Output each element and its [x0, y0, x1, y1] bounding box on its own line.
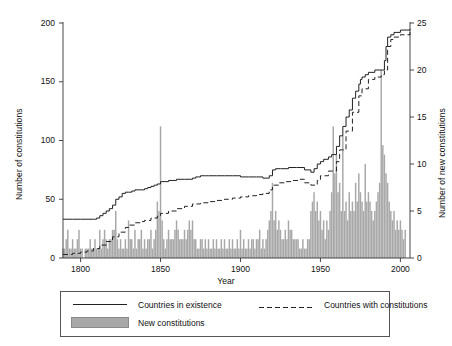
bar	[376, 202, 377, 258]
bar	[181, 239, 182, 258]
bar	[221, 239, 222, 258]
bar	[289, 230, 290, 258]
bar	[227, 249, 228, 258]
bar	[395, 230, 396, 258]
bar	[253, 239, 254, 258]
bar	[182, 239, 183, 258]
bar	[126, 249, 127, 258]
bar	[273, 220, 274, 258]
bar	[356, 202, 357, 258]
bar	[102, 239, 103, 258]
bar	[293, 239, 294, 258]
bar	[168, 230, 169, 258]
bar	[144, 239, 145, 258]
bar	[382, 145, 383, 258]
bar	[275, 211, 276, 258]
bar	[385, 173, 386, 258]
bar	[318, 220, 319, 258]
bar	[142, 249, 143, 258]
bar	[94, 239, 95, 258]
bar	[137, 239, 138, 258]
bar	[64, 249, 65, 258]
bar	[229, 239, 230, 258]
bar	[176, 220, 177, 258]
bar	[291, 230, 292, 258]
bar	[248, 239, 249, 258]
bar	[380, 70, 381, 258]
bar	[133, 249, 134, 258]
bar	[256, 239, 257, 258]
bar	[206, 249, 207, 258]
bar	[353, 211, 354, 258]
bar	[91, 249, 92, 258]
bar	[145, 249, 146, 258]
bar	[358, 173, 359, 258]
bar	[387, 183, 388, 258]
legend-item-countries-in-existence: Countries in existence	[71, 299, 222, 310]
bar	[281, 239, 282, 258]
bar	[169, 239, 170, 258]
bar	[241, 249, 242, 258]
chart-legend: Countries in existence Countries with co…	[60, 291, 390, 337]
bar	[331, 192, 332, 258]
bar	[344, 211, 345, 258]
bar	[197, 249, 198, 258]
legend-solid-line-icon	[71, 299, 129, 310]
bar	[166, 239, 167, 258]
bar	[81, 249, 82, 258]
bar	[208, 239, 209, 258]
bar	[401, 230, 402, 258]
bar	[286, 239, 287, 258]
bar	[189, 220, 190, 258]
bar	[233, 249, 234, 258]
bar	[85, 249, 86, 258]
bar	[86, 249, 87, 258]
legend-item-new-constitutions: New constitutions	[71, 317, 205, 328]
bar	[246, 249, 247, 258]
bar	[302, 239, 303, 258]
bar	[192, 220, 193, 258]
bar	[305, 249, 306, 258]
legend-label: Countries in existence	[138, 300, 222, 310]
bar	[363, 211, 364, 258]
bar	[393, 211, 394, 258]
bar	[388, 202, 389, 258]
bar	[257, 239, 258, 258]
bar	[371, 211, 372, 258]
bar	[88, 249, 89, 258]
bar	[209, 249, 210, 258]
bar	[225, 249, 226, 258]
bar	[153, 239, 154, 258]
bar	[129, 239, 130, 258]
bar	[70, 249, 71, 258]
bar	[349, 192, 350, 258]
bar	[115, 211, 116, 258]
bar	[214, 249, 215, 258]
bar	[392, 220, 393, 258]
bar	[171, 239, 172, 258]
bar	[97, 249, 98, 258]
bar	[121, 249, 122, 258]
bar	[193, 239, 194, 258]
bar	[195, 239, 196, 258]
bar	[315, 211, 316, 258]
bar	[272, 183, 273, 258]
bar	[179, 239, 180, 258]
bar	[304, 249, 305, 258]
bar	[219, 249, 220, 258]
bar	[117, 239, 118, 258]
bar	[157, 202, 158, 258]
bar	[369, 202, 370, 258]
bar	[364, 164, 365, 258]
bar	[101, 249, 102, 258]
bar	[404, 230, 405, 258]
bar	[139, 239, 140, 258]
legend-dashed-line-icon	[257, 299, 315, 310]
dashed-line-svg	[257, 302, 315, 310]
bar	[403, 239, 404, 258]
bar	[173, 239, 174, 258]
bar	[99, 230, 100, 258]
bar	[269, 220, 270, 258]
bar	[104, 230, 105, 258]
bar	[328, 230, 329, 258]
